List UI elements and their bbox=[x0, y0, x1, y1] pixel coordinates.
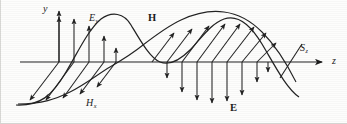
h-field-arrows-left-lobe bbox=[30, 62, 116, 100]
h-field-arrows-right-lobe bbox=[152, 24, 276, 62]
scan-edge-bottom bbox=[0, 123, 347, 124]
h-field-symbol: H bbox=[86, 97, 93, 108]
y-axis-label: y bbox=[43, 4, 47, 14]
z-axis-label: z bbox=[332, 56, 336, 66]
scan-edge-left bbox=[0, 0, 1, 124]
e-field-subscript: y bbox=[96, 17, 99, 24]
e-field-bold-label: E bbox=[230, 103, 237, 114]
h-field-subscript: x bbox=[94, 102, 97, 109]
e-field-arrows-left-lobe bbox=[59, 17, 116, 62]
e-field-symbol: E bbox=[89, 12, 95, 23]
h-field-bold-label: H bbox=[148, 13, 156, 24]
em-wave-figure: y z Sz Ey Hx H E bbox=[0, 0, 347, 124]
e-field-arrows-right-lobe bbox=[167, 62, 268, 103]
magnetic-field-envelope bbox=[18, 11, 296, 104]
poynting-vector-label: Sz bbox=[300, 43, 308, 54]
poynting-subscript: z bbox=[305, 47, 307, 54]
h-field-inline-label: Hx bbox=[86, 98, 96, 109]
e-field-inline-label: Ey bbox=[89, 13, 98, 24]
em-wave-drawing bbox=[0, 0, 347, 124]
